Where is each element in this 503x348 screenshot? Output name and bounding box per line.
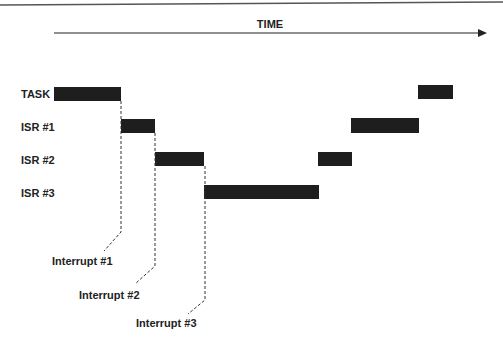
row-labels: TASK ISR #1 ISR #2 ISR #3 [21, 88, 55, 199]
bar-task-2 [418, 85, 453, 99]
arrow-head-icon [478, 29, 487, 37]
bar-isr1-2 [351, 118, 419, 133]
row-label-isr1: ISR #1 [21, 121, 55, 133]
row-label-isr2: ISR #2 [21, 154, 55, 166]
bar-isr2-1 [155, 152, 204, 166]
interrupt-markers: Interrupt #1 Interrupt #2 Interrupt #3 [52, 101, 205, 329]
interrupt-1-line [104, 101, 121, 251]
interrupt-2-label: Interrupt #2 [79, 289, 140, 301]
bar-isr1-1 [121, 119, 155, 133]
time-axis-label: TIME [257, 18, 283, 30]
row-label-task: TASK [21, 88, 50, 100]
interrupt-2-line [135, 133, 155, 284]
bar-isr3-1 [204, 185, 319, 199]
interrupt-1-label: Interrupt #1 [52, 255, 113, 267]
interrupt-3-label: Interrupt #3 [136, 317, 197, 329]
time-axis: TIME [54, 18, 487, 37]
top-border [0, 2, 503, 5]
row-label-isr3: ISR #3 [21, 187, 55, 199]
bar-task-1 [54, 87, 121, 101]
interrupt-timing-diagram: TIME TASK ISR #1 ISR #2 ISR #3 Interrupt… [0, 0, 503, 348]
bar-isr2-2 [318, 152, 352, 166]
interrupt-3-line [188, 166, 205, 314]
execution-bars [54, 85, 453, 199]
